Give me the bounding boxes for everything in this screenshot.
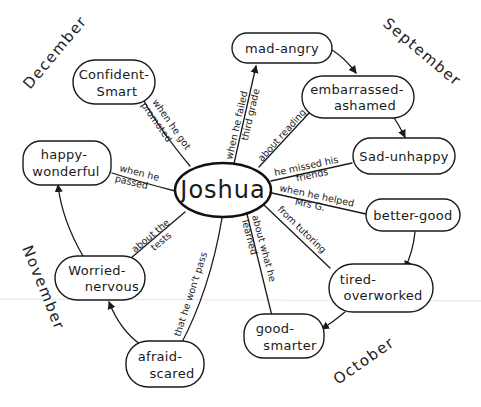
node-label: better-good — [373, 208, 452, 223]
center-label: Joshua — [178, 176, 265, 204]
node-worried-nervous[interactable]: Worried- nervous — [55, 256, 145, 300]
node-label: tired- — [340, 272, 377, 287]
node-label: embarrassed- — [310, 82, 403, 97]
edge-line-tired — [264, 205, 330, 268]
node-label: mad-angry — [245, 41, 319, 56]
edge-label-embarrassed: about reading — [255, 107, 308, 164]
edge-line-afraid — [180, 218, 222, 346]
node-label: happy- — [41, 147, 88, 162]
node-embarrassed-ashamed[interactable]: embarrassed- ashamed — [302, 76, 414, 118]
edge-label-confident: when he got promoted — [139, 94, 195, 161]
edge-label-happy: when he passed — [114, 162, 164, 194]
month-label-october: October — [330, 333, 398, 388]
node-label: overworked — [343, 288, 422, 303]
node-good-smarter[interactable]: good- smarter — [244, 314, 324, 358]
node-label: ashamed — [334, 98, 396, 113]
node-label: Worried- — [68, 263, 125, 278]
node-better-good[interactable]: better-good — [366, 199, 460, 231]
node-label: scared — [150, 366, 195, 381]
node-label: smarter — [263, 338, 317, 353]
node-label: Smart — [97, 84, 138, 99]
node-label: wonderful — [32, 164, 100, 179]
node-tired-overworked[interactable]: tired- overworked — [329, 264, 433, 312]
node-afraid-scared[interactable]: afraid- scared — [126, 341, 204, 387]
concept-map-canvas: when he failed third grade about reading… — [0, 0, 481, 407]
node-label: afraid- — [138, 349, 183, 364]
arrow-worried-to-happy — [58, 185, 83, 256]
arrow-tired-to-good — [322, 312, 345, 329]
center-node-joshua[interactable]: Joshua — [175, 163, 271, 217]
arrow-embarrassed-to-sad — [393, 116, 405, 137]
arrow-afraid-to-worried — [109, 302, 140, 344]
node-label: good- — [256, 321, 295, 336]
node-label: Sad-unhappy — [359, 149, 448, 164]
node-label: nervous — [85, 279, 139, 294]
node-happy-wonderful[interactable]: happy- wonderful — [23, 141, 111, 185]
edge-label-mad-angry: when he failed third grade — [223, 85, 261, 163]
node-mad-angry[interactable]: mad-angry — [232, 33, 332, 63]
edge-label-good-smarter: about what he learned — [239, 214, 279, 289]
node-sad-unhappy[interactable]: Sad-unhappy — [353, 138, 455, 174]
arrow-mad-to-embarrassed — [332, 50, 356, 73]
node-confident-smart[interactable]: Confident- Smart — [73, 60, 155, 104]
node-label: Confident- — [79, 67, 150, 82]
arrow-better-to-tired — [405, 232, 415, 268]
